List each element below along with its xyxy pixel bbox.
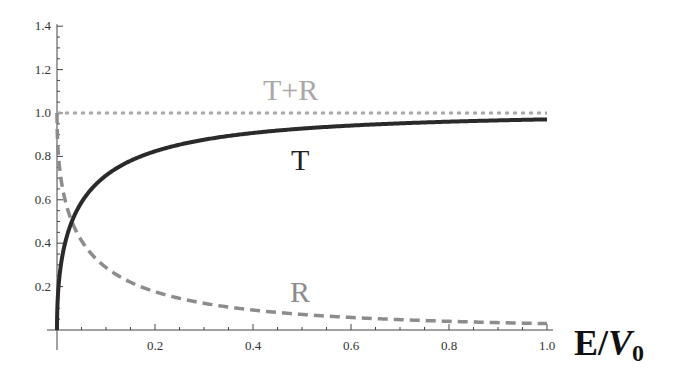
transmission-reflection-chart: 0.20.40.60.81.00.20.40.60.81.01.21.4 T+R… [0,0,680,378]
x-tick-label: 0.4 [245,338,262,353]
label-t: T [291,143,309,176]
y-tick-label: 1.2 [35,62,51,77]
x-tick-label: 1.0 [539,338,555,353]
label-r: R [290,275,310,308]
y-tick-label: 0.6 [35,192,52,207]
y-tick-label: 0.2 [35,279,51,294]
y-tick-label: 0.4 [35,235,52,250]
x-axis-title: E/V0 [574,323,644,366]
y-tick-label: 1.4 [35,18,52,33]
label-t-plus-r: T+R [263,73,318,106]
y-tick-label: 1.0 [35,105,51,120]
y-tick-label: 0.8 [35,148,51,163]
x-tick-label: 0.2 [147,338,163,353]
x-tick-label: 0.6 [343,338,360,353]
x-tick-label: 0.8 [441,338,457,353]
